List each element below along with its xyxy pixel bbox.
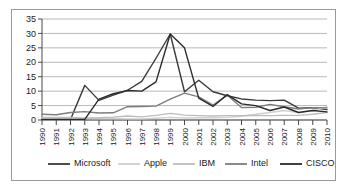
xtick-label-1990: 1990 bbox=[38, 127, 47, 145]
legend-label-cisco: CISCO bbox=[306, 158, 335, 168]
legend-label-microsoft: Microsoft bbox=[74, 158, 111, 168]
xtick-label-1994: 1994 bbox=[95, 127, 104, 145]
legend-label-intel: Intel bbox=[251, 158, 268, 168]
ytick-label-35: 35 bbox=[26, 14, 36, 24]
xtick-label-2005: 2005 bbox=[252, 127, 261, 145]
ytick-label-0: 0 bbox=[31, 115, 36, 125]
xtick-label-2008: 2008 bbox=[295, 127, 304, 145]
xtick-label-1999: 1999 bbox=[166, 127, 175, 145]
xtick-label-1998: 1998 bbox=[152, 127, 161, 145]
xtick-label-2002: 2002 bbox=[209, 127, 218, 145]
ytick-label-25: 25 bbox=[26, 43, 36, 53]
plot-area: 0510152025303519901991199219931994199519… bbox=[12, 10, 337, 182]
chart-container: 0510152025303519901991199219931994199519… bbox=[11, 9, 336, 181]
ytick-label-30: 30 bbox=[26, 29, 36, 39]
legend-label-ibm: IBM bbox=[199, 158, 215, 168]
line-chart: 0510152025303519901991199219931994199519… bbox=[12, 10, 337, 182]
xtick-label-2009: 2009 bbox=[309, 127, 318, 145]
xtick-label-2004: 2004 bbox=[238, 127, 247, 145]
ytick-label-15: 15 bbox=[26, 72, 36, 82]
ytick-label-20: 20 bbox=[26, 57, 36, 67]
xtick-label-2003: 2003 bbox=[223, 127, 232, 145]
xtick-label-1992: 1992 bbox=[67, 127, 76, 145]
xtick-label-2007: 2007 bbox=[280, 127, 289, 145]
xtick-label-2010: 2010 bbox=[323, 127, 332, 145]
xtick-label-2000: 2000 bbox=[181, 127, 190, 145]
legend-label-apple: Apple bbox=[144, 158, 167, 168]
xtick-label-2006: 2006 bbox=[266, 127, 275, 145]
xtick-label-1996: 1996 bbox=[124, 127, 133, 145]
xtick-label-1997: 1997 bbox=[138, 127, 147, 145]
xtick-label-2001: 2001 bbox=[195, 127, 204, 145]
series-line-intel bbox=[42, 93, 327, 115]
xtick-label-1993: 1993 bbox=[81, 127, 90, 145]
ytick-label-10: 10 bbox=[26, 86, 36, 96]
series-line-apple bbox=[42, 107, 327, 119]
ytick-label-5: 5 bbox=[31, 101, 36, 111]
xtick-label-1991: 1991 bbox=[52, 127, 61, 145]
xtick-label-1995: 1995 bbox=[109, 127, 118, 145]
